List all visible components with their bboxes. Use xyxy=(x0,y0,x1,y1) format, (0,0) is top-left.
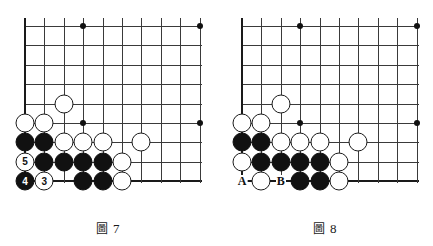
grid-line-vertical xyxy=(180,18,181,183)
star-point xyxy=(197,23,203,29)
go-stone-white[interactable] xyxy=(330,172,349,191)
go-stone-black[interactable] xyxy=(54,152,73,171)
go-stone-black[interactable] xyxy=(35,152,54,171)
grid-line-vertical xyxy=(200,18,201,183)
star-point xyxy=(80,120,86,126)
go-stone-white[interactable] xyxy=(74,133,93,152)
star-point xyxy=(414,120,420,126)
star-point xyxy=(414,23,420,29)
grid-line-horizontal xyxy=(25,45,202,46)
go-stone-black[interactable] xyxy=(252,133,271,152)
go-stone-white[interactable] xyxy=(349,133,368,152)
grid-line-horizontal xyxy=(25,65,202,66)
go-stone-white[interactable] xyxy=(93,133,112,152)
grid-line-horizontal xyxy=(25,84,202,85)
star-point xyxy=(197,120,203,126)
grid-line-horizontal xyxy=(25,26,202,27)
grid-line-vertical xyxy=(417,18,418,183)
grid-line-horizontal xyxy=(242,65,419,66)
grid-line-horizontal xyxy=(242,45,419,46)
grid-line-vertical xyxy=(161,18,162,183)
go-stone-black[interactable] xyxy=(74,152,93,171)
go-stone-black[interactable] xyxy=(291,152,310,171)
go-stone-white[interactable] xyxy=(310,133,329,152)
go-stone-white[interactable] xyxy=(113,152,132,171)
go-stone-black[interactable] xyxy=(93,152,112,171)
go-stone-white[interactable] xyxy=(291,133,310,152)
go-stone-white[interactable] xyxy=(35,114,54,133)
grid-line-horizontal xyxy=(242,26,419,27)
star-point xyxy=(80,23,86,29)
go-stone-white[interactable] xyxy=(54,133,73,152)
figure-8-caption-cjk: 圖 xyxy=(313,222,326,236)
grid-line-horizontal xyxy=(242,84,419,85)
go-stone-black[interactable] xyxy=(35,133,54,152)
go-stone-black[interactable] xyxy=(233,133,252,152)
figure-8-caption: 圖 8 xyxy=(217,219,433,237)
go-stone-black-move-4[interactable]: 4 xyxy=(16,172,35,191)
go-stone-white[interactable] xyxy=(252,114,271,133)
figure-7-caption-cjk: 圖 xyxy=(96,222,109,236)
go-board-8: AB xyxy=(217,0,433,215)
go-stone-black[interactable] xyxy=(310,152,329,171)
go-stone-black[interactable] xyxy=(310,172,329,191)
go-stone-black[interactable] xyxy=(93,172,112,191)
grid-line-vertical xyxy=(397,18,398,183)
go-stone-black[interactable] xyxy=(291,172,310,191)
go-stone-white-move-3[interactable]: 3 xyxy=(35,172,54,191)
go-board-7: 543 xyxy=(0,0,216,215)
go-diagram-page: 543 圖 7 AB 圖 8 xyxy=(0,0,433,246)
go-stone-black[interactable] xyxy=(74,172,93,191)
board-point-label-b[interactable]: B xyxy=(276,175,286,187)
star-point xyxy=(297,120,303,126)
go-stone-white[interactable] xyxy=(271,94,290,113)
go-stone-black[interactable] xyxy=(271,152,290,171)
go-stone-black[interactable] xyxy=(16,133,35,152)
grid-line-vertical xyxy=(141,18,142,183)
grid-line-vertical xyxy=(358,18,359,183)
grid-line-vertical xyxy=(378,18,379,183)
go-stone-white[interactable] xyxy=(233,114,252,133)
go-stone-white[interactable] xyxy=(252,172,271,191)
go-stone-white[interactable] xyxy=(113,172,132,191)
go-stone-white-move-5[interactable]: 5 xyxy=(16,152,35,171)
go-stone-white[interactable] xyxy=(54,94,73,113)
go-stone-white[interactable] xyxy=(132,133,151,152)
grid-line-horizontal xyxy=(242,104,419,105)
star-point xyxy=(297,23,303,29)
board-point-label-a[interactable]: A xyxy=(237,175,248,187)
go-stone-white[interactable] xyxy=(271,133,290,152)
figure-7-caption-number: 7 xyxy=(113,221,121,236)
grid-line-horizontal xyxy=(25,104,202,105)
go-stone-white[interactable] xyxy=(233,152,252,171)
go-stone-black[interactable] xyxy=(252,152,271,171)
go-figure-7: 543 圖 7 xyxy=(0,0,216,246)
go-stone-white[interactable] xyxy=(330,152,349,171)
figure-8-caption-number: 8 xyxy=(330,221,338,236)
figure-7-caption: 圖 7 xyxy=(0,219,216,237)
go-figure-8: AB 圖 8 xyxy=(217,0,433,246)
go-stone-white[interactable] xyxy=(16,114,35,133)
